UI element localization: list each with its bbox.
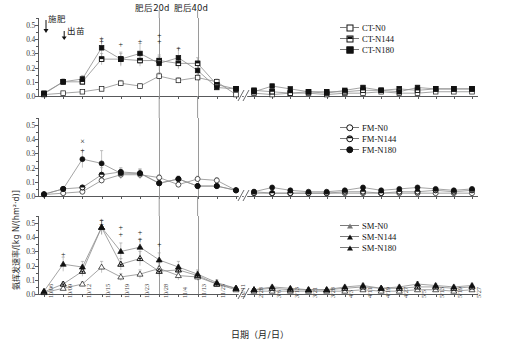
data-point bbox=[176, 61, 181, 66]
data-point bbox=[288, 87, 293, 92]
significance-marker: + bbox=[61, 249, 66, 258]
x-axis-tick-mark bbox=[272, 196, 273, 199]
legend-sm: SM-N0SM-N144SM-N180 bbox=[340, 220, 396, 253]
data-point bbox=[176, 176, 181, 181]
x-axis-tick-mark bbox=[345, 294, 346, 297]
legend-label: FM-N0 bbox=[362, 123, 388, 133]
legend-item-fm-n0[interactable]: FM-N0 bbox=[340, 122, 396, 133]
x-axis-tick-mark bbox=[436, 294, 437, 297]
x-axis-tick-mark bbox=[159, 196, 160, 199]
data-point bbox=[306, 189, 311, 194]
x-axis-tick-label: 11/25 bbox=[219, 284, 226, 298]
x-axis-tick-mark bbox=[418, 96, 419, 99]
significance-marker: + bbox=[119, 39, 124, 48]
legend-marker-triangle bbox=[347, 223, 353, 228]
x-axis-tick-label: 4/11 bbox=[366, 287, 373, 298]
x-axis-tick-label: 10/19 bbox=[123, 284, 130, 298]
x-axis-tick-mark bbox=[236, 294, 237, 297]
x-axis-tick-mark bbox=[254, 294, 255, 297]
data-point bbox=[234, 188, 239, 193]
x-axis-tick-mark bbox=[140, 294, 141, 297]
legend-item-ct-n0[interactable]: CT-N0 bbox=[340, 22, 394, 33]
x-axis-tick-label: 3/13 bbox=[293, 287, 300, 298]
data-point bbox=[99, 178, 104, 183]
x-axis-tick-mark bbox=[102, 294, 103, 297]
data-point bbox=[176, 55, 181, 60]
x-axis-tick-mark bbox=[381, 96, 382, 99]
data-point bbox=[415, 85, 420, 90]
data-point bbox=[176, 182, 181, 187]
x-axis-tick-label: 4/19 bbox=[384, 287, 391, 298]
x-axis-tick-mark bbox=[363, 196, 364, 199]
x-axis-tick-mark bbox=[140, 196, 141, 199]
legend-item-ct-n180[interactable]: CT-N180 bbox=[340, 44, 394, 55]
x-axis-tick-label: 3/6 bbox=[275, 290, 282, 298]
data-point bbox=[195, 68, 200, 73]
data-point bbox=[234, 87, 239, 92]
x-axis-tick-label: 11/13 bbox=[200, 284, 207, 298]
x-axis-tick-mark bbox=[178, 294, 179, 297]
x-axis-tick-label: 5/13 bbox=[438, 287, 445, 298]
x-axis-tick-label: 10/09 bbox=[66, 284, 73, 298]
y-axis-label: 氨挥发速率/[kg N/(hm²·d)] bbox=[10, 190, 21, 290]
data-point bbox=[214, 178, 219, 183]
legend-marker-square bbox=[346, 35, 353, 42]
data-point bbox=[451, 188, 456, 193]
data-point bbox=[138, 84, 143, 89]
x-axis-tick-label: 2/28 bbox=[257, 287, 264, 298]
x-axis-tick-mark bbox=[345, 96, 346, 99]
data-point bbox=[433, 87, 438, 92]
data-point bbox=[306, 89, 311, 94]
panel-sm: 0.00.10.20.30.40.5 ++++++++ bbox=[38, 216, 478, 294]
legend-marker-square bbox=[346, 24, 353, 31]
x-axis-tick-mark bbox=[454, 196, 455, 199]
x-axis-tick-mark bbox=[217, 294, 218, 297]
data-point bbox=[270, 84, 275, 89]
x-axis-line bbox=[38, 196, 478, 197]
legend-fm: FM-N0FM-N144FM-N180 bbox=[340, 122, 396, 155]
legend-line-swatch bbox=[340, 38, 359, 39]
x-axis-tick-mark bbox=[454, 96, 455, 99]
data-point bbox=[415, 185, 420, 190]
data-point bbox=[415, 281, 421, 286]
plot-fm bbox=[38, 118, 478, 196]
legend-item-sm-n180[interactable]: SM-N180 bbox=[340, 242, 396, 253]
x-axis-tick-mark bbox=[327, 196, 328, 199]
x-axis-tick-mark bbox=[436, 96, 437, 99]
legend-marker-square bbox=[346, 46, 353, 53]
legend-line-swatch bbox=[340, 49, 359, 50]
legend-label: CT-N144 bbox=[362, 34, 394, 44]
x-axis-tick-label: 3/21 bbox=[311, 287, 318, 298]
x-axis-tick-mark bbox=[254, 196, 255, 199]
legend-line-swatch bbox=[340, 127, 359, 128]
legend-marker-circle bbox=[346, 124, 354, 132]
x-axis-tick-mark bbox=[217, 196, 218, 199]
legend-item-sm-n144[interactable]: SM-N144 bbox=[340, 231, 396, 242]
x-axis-tick-mark bbox=[290, 294, 291, 297]
legend-item-fm-n144[interactable]: FM-N144 bbox=[340, 133, 396, 144]
legend-line-swatch bbox=[340, 27, 359, 28]
data-point bbox=[288, 188, 293, 193]
x-axis-tick-label: 10/06 bbox=[47, 284, 54, 298]
data-point bbox=[99, 264, 105, 269]
x-axis-tick-label: 5/19 bbox=[456, 287, 463, 298]
x-axis-tick-mark bbox=[63, 96, 64, 99]
data-point bbox=[470, 186, 475, 191]
significance-marker: + bbox=[119, 229, 124, 238]
data-point bbox=[343, 88, 348, 93]
data-point bbox=[80, 89, 85, 94]
plot-ct bbox=[38, 18, 478, 96]
annotation-day20: 肥后20d bbox=[135, 1, 169, 13]
x-axis-tick-mark bbox=[121, 96, 122, 99]
legend-item-sm-n0[interactable]: SM-N0 bbox=[340, 220, 396, 231]
x-axis-tick-label: 10/28 bbox=[162, 284, 169, 298]
data-point bbox=[157, 181, 162, 186]
data-point bbox=[195, 176, 200, 181]
x-axis-tick-mark bbox=[472, 96, 473, 99]
x-axis-tick-mark bbox=[198, 196, 199, 199]
data-point bbox=[269, 284, 275, 289]
legend-item-ct-n144[interactable]: CT-N144 bbox=[340, 33, 394, 44]
legend-item-fm-n180[interactable]: FM-N180 bbox=[340, 144, 396, 155]
legend-label: FM-N144 bbox=[362, 134, 396, 144]
